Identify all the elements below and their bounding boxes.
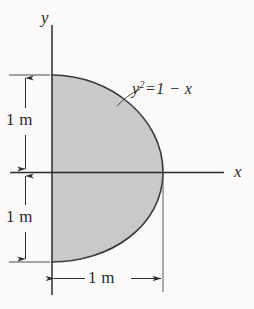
figure-drawing [0, 0, 254, 309]
curve-equation-label: y2=1 − x [132, 80, 192, 97]
dimension-label-width: 1 m [88, 269, 115, 286]
figure-canvas: y x 1 m 1 m 1 m y2=1 − x [0, 0, 254, 309]
equation-operator: = [145, 80, 156, 97]
x-axis-label: x [234, 163, 242, 180]
dimension-label-lower-height: 1 m [6, 208, 33, 225]
y-axis-label: y [41, 9, 49, 26]
equation-right-side: 1 − x [156, 80, 192, 97]
equation-variable: y [132, 80, 140, 97]
dimension-label-upper-height: 1 m [6, 111, 33, 128]
shaded-parabolic-region [52, 75, 163, 262]
